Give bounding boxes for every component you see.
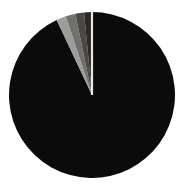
pie-chart-canvas bbox=[0, 0, 187, 186]
pie-chart-figure bbox=[0, 0, 187, 186]
